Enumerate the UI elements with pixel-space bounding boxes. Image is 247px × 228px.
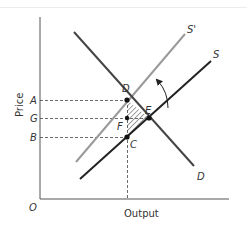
label-demand: D [197,171,205,182]
point-f [125,116,129,120]
label-s-prime: S' [187,24,196,35]
label-a: A [29,95,37,106]
point-d [124,97,129,102]
x-axis-label: Output [124,208,159,219]
label-point-c: C [130,139,137,150]
label-g: G [30,113,38,124]
label-b: B [30,132,37,143]
supply-curve-s [80,61,211,179]
y-axis-label: Price [14,93,25,117]
label-point-f: F [117,121,123,132]
point-e [146,115,151,120]
label-s: S [213,49,220,60]
label-origin: O [29,202,37,213]
supply-demand-diagram: A G B D E F C S' S D O Output Price [0,0,247,228]
point-c [124,134,129,139]
label-point-d: D [122,83,130,94]
label-point-e: E [145,105,152,116]
